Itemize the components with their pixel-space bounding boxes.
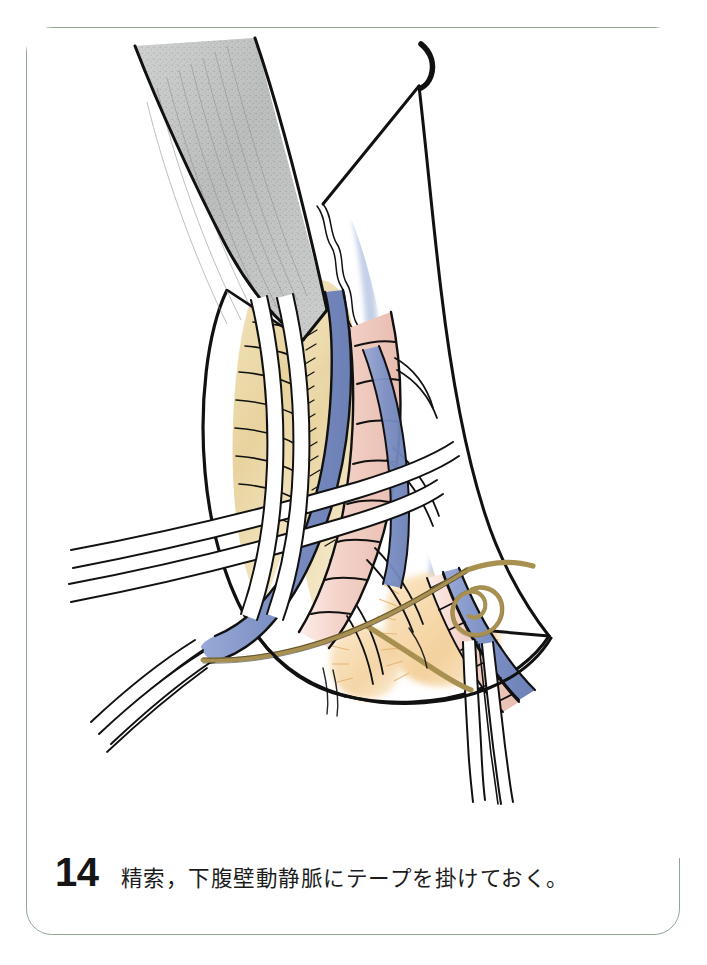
page-root: 14 精索，下腹壁動静脈にテープを掛けておく。	[0, 0, 707, 965]
figure-caption: 14 精索，下腹壁動静脈にテープを掛けておく。	[27, 852, 681, 912]
surgical-illustration	[27, 28, 681, 858]
figure-card: 14 精索，下腹壁動静脈にテープを掛けておく。	[26, 27, 680, 935]
illustration-svg	[27, 28, 681, 858]
caption-number: 14	[55, 852, 99, 892]
caption-text: 精索，下腹壁動静脈にテープを掛けておく。	[121, 866, 569, 892]
